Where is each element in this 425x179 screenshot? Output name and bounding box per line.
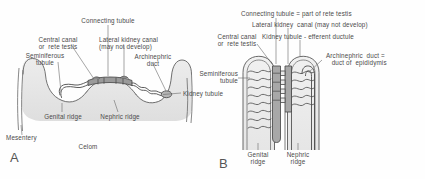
label-a-nephric-ridge: Nephric ridge (93, 113, 147, 120)
b-rete-testis-column (273, 66, 281, 143)
panel-letter-a: A (10, 150, 19, 165)
label-a-seminiferous-tubule: Seminiferous tubule (14, 52, 76, 67)
b-connecting-tubules (281, 71, 286, 103)
panel-letter-b: B (219, 156, 228, 171)
label-b-seminiferous-tubule: Seminiferous tubule (186, 70, 238, 85)
label-b-lateral-kidney-canal: Lateral kidney canal (may not develop) (252, 21, 424, 28)
label-a-central-canal: Central canal or rete testis (20, 36, 96, 51)
b-lateral-kidney-canal-column (285, 66, 292, 112)
label-a-celom: Celom (68, 143, 108, 150)
label-a-mesentery: Mesentery (6, 134, 56, 141)
label-a-connecting-tubule: Connecting tubule (58, 17, 158, 24)
a-kidney-tubule-lower (132, 85, 164, 95)
a-mesentery (18, 68, 19, 130)
label-a-kidney-tubule: Kidney tubule (183, 90, 243, 97)
label-b-archinephric-duct: Archinephric duct = duct of epididymis (326, 52, 422, 67)
label-a-archinephric-duct: Archinephric duct (126, 53, 180, 68)
label-b-nephric-ridge: Nephric ridge (276, 151, 320, 166)
label-b-connecting-tubule: Connecting tubule = part of rete testis (241, 10, 419, 17)
label-b-genital-ridge: Genital ridge (236, 151, 280, 166)
label-b-kidney-tubule: Kidney tubule - efferent ductule (262, 33, 417, 40)
label-a-genital-ridge: Genital ridge (36, 113, 90, 120)
label-a-lateral-kidney-canal: Lateral kidney canal (may not develop) (99, 36, 191, 51)
label-b-central-canal: Central canal or rete testis (203, 33, 271, 48)
anatomical-figure: Connecting tubule Central canal or rete … (0, 0, 425, 179)
